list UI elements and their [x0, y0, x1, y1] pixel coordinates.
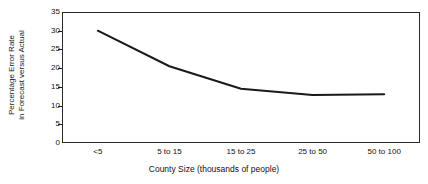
plot-canvas [62, 12, 420, 143]
y-axis-title: Percentage Error Rate in Forecast versus… [0, 0, 34, 150]
x-axis-tick-label: 25 to 50 [298, 147, 327, 156]
y-axis-tick-labels: 05101520253035 [36, 0, 60, 184]
x-axis-tick-label: 5 to 15 [157, 147, 181, 156]
y-axis-title-text: Percentage Error Rate in Forecast versus… [7, 30, 27, 119]
y-axis-tick-mark [58, 124, 62, 125]
y-axis-tick-mark [58, 106, 62, 107]
y-axis-tick-label: 0 [38, 139, 60, 147]
y-axis-tick-mark [58, 31, 62, 32]
y-axis-tick-mark [58, 49, 62, 50]
chart-figure: Percentage Error Rate in Forecast versus… [0, 0, 428, 184]
x-axis-title: County Size (thousands of people) [0, 164, 428, 174]
y-axis-title-line-2: in Forecast versus Actual [17, 30, 27, 119]
y-axis-tick-label: 30 [38, 27, 60, 35]
y-axis-tick-label: 35 [38, 8, 60, 16]
x-axis-tick-label: 15 to 25 [227, 147, 256, 156]
y-axis-tick-mark [58, 87, 62, 88]
y-axis-title-line-1: Percentage Error Rate [7, 30, 17, 119]
data-series-line [98, 31, 384, 95]
y-axis-tick-label: 20 [38, 64, 60, 72]
y-axis-tick-label: 5 [38, 120, 60, 128]
y-axis-tick-label: 15 [38, 83, 60, 91]
y-axis-tick-label: 10 [38, 102, 60, 110]
x-axis-tick-label: <5 [93, 147, 102, 156]
x-axis-tick-label: 50 to 100 [368, 147, 401, 156]
y-axis-tick-label: 25 [38, 45, 60, 53]
y-axis-tick-mark [58, 68, 62, 69]
